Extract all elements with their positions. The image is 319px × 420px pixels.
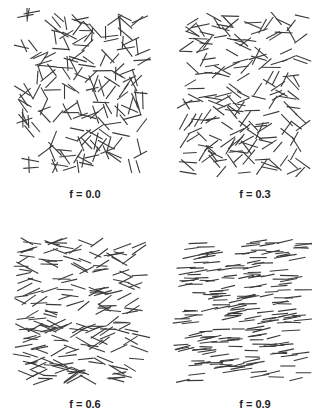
rod-segment xyxy=(137,119,147,133)
rod-segment xyxy=(73,262,87,270)
rod-segment xyxy=(58,355,76,357)
rod-segment xyxy=(283,75,300,77)
rod-segment xyxy=(183,153,197,154)
rod-segment xyxy=(207,13,222,21)
rod-segment xyxy=(250,374,269,377)
rod-segment xyxy=(16,273,31,276)
rod-segment xyxy=(189,114,196,127)
rod-segment xyxy=(272,302,289,303)
rod-segment xyxy=(54,31,56,44)
rod-segment xyxy=(197,132,206,141)
rod-segment xyxy=(104,77,120,87)
rod-segment xyxy=(287,27,295,42)
rod-segment xyxy=(263,17,273,31)
rod-segment xyxy=(143,92,144,110)
rod-segment xyxy=(22,158,40,161)
rod-segment xyxy=(52,48,69,49)
rod-segment xyxy=(250,240,267,243)
rod-segment xyxy=(105,310,122,312)
rod-segment xyxy=(243,274,260,275)
rod-segment xyxy=(32,122,41,132)
rod-segment xyxy=(90,124,104,133)
rod-segment xyxy=(41,288,57,293)
rod-segment xyxy=(180,171,197,174)
rod-segment xyxy=(187,18,198,25)
rod-segment xyxy=(189,332,205,336)
rod-segment xyxy=(231,367,244,370)
rod-segment xyxy=(292,315,306,316)
rod-segment xyxy=(278,309,296,312)
rod-segment xyxy=(280,156,288,167)
rod-segment xyxy=(99,306,117,307)
rod-segment xyxy=(211,294,227,295)
rod-segment xyxy=(221,122,232,130)
rod-segment xyxy=(272,313,288,314)
rod-segment xyxy=(230,39,244,40)
rod-segment xyxy=(107,377,125,378)
rod-segment xyxy=(18,371,34,377)
rod-segment xyxy=(99,79,104,96)
rod-segment xyxy=(245,308,260,309)
rod-segment xyxy=(285,296,302,298)
rod-segment xyxy=(294,34,307,44)
rod-segment xyxy=(292,352,310,354)
rod-segment xyxy=(277,322,292,323)
rod-segment xyxy=(277,240,293,244)
rod-segment xyxy=(132,334,150,338)
rod-segment xyxy=(59,246,73,249)
rod-field xyxy=(175,12,312,177)
rod-segment xyxy=(278,290,291,291)
rod-segment xyxy=(105,122,122,125)
rod-segment xyxy=(106,86,116,99)
rod-segment xyxy=(57,289,73,290)
rod-segment xyxy=(213,106,225,115)
rod-segment xyxy=(16,262,29,269)
rod-segment xyxy=(83,57,94,65)
rod-segment xyxy=(235,253,249,254)
rod-segment xyxy=(254,83,262,96)
rod-segment xyxy=(72,50,85,60)
rod-segment xyxy=(263,111,279,115)
rod-segment xyxy=(70,128,84,131)
rod-segment xyxy=(117,293,131,300)
rod-segment xyxy=(136,160,140,173)
rod-segment xyxy=(64,38,70,51)
rod-segment xyxy=(272,71,279,85)
rod-segment xyxy=(244,286,261,287)
rod-segment xyxy=(122,36,123,49)
rod-panel-f03 xyxy=(175,12,312,177)
rod-segment xyxy=(174,344,189,345)
rod-segment xyxy=(102,35,119,37)
rod-segment xyxy=(59,155,76,157)
rod-segment xyxy=(202,352,216,355)
rod-segment xyxy=(129,358,144,359)
rod-segment xyxy=(41,88,48,100)
rod-segment xyxy=(66,349,79,353)
rod-segment xyxy=(185,335,203,338)
rod-segment xyxy=(93,147,98,162)
rod-segment xyxy=(111,345,128,353)
rod-field xyxy=(12,8,152,173)
rod-segment xyxy=(194,270,208,273)
rod-segment xyxy=(208,100,225,107)
rod-segment xyxy=(71,285,86,290)
rod-segment xyxy=(23,167,38,168)
rod-segment xyxy=(294,357,308,361)
rod-panel-f09 xyxy=(172,236,312,386)
rod-segment xyxy=(129,77,137,92)
rod-segment xyxy=(117,103,118,117)
rod-segment xyxy=(93,102,110,103)
rod-segment xyxy=(26,310,38,317)
rod-segment xyxy=(80,375,96,384)
rod-segment xyxy=(188,373,205,375)
rod-segment xyxy=(15,295,29,297)
rod-segment xyxy=(21,238,33,245)
rod-segment xyxy=(281,72,288,86)
rod-segment xyxy=(240,111,251,126)
rod-segment xyxy=(35,60,52,65)
rod-segment xyxy=(205,65,219,67)
rod-segment xyxy=(128,97,133,114)
rod-segment xyxy=(56,67,73,68)
rod-segment xyxy=(276,19,291,26)
rod-segment xyxy=(260,243,275,246)
